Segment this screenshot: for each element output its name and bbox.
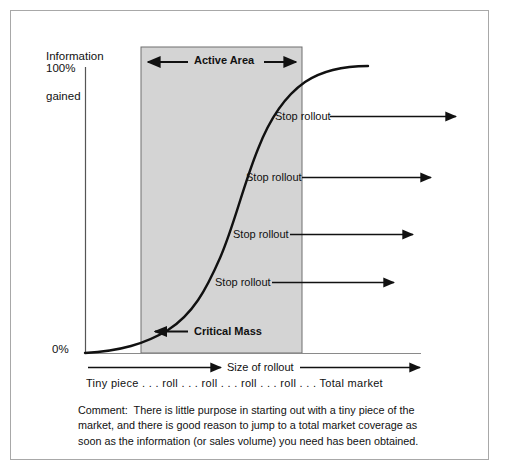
y-tick-100: 100% xyxy=(46,62,75,75)
comment-line-1: Comment: There is little purpose in star… xyxy=(78,403,433,418)
figure-page: Information gained 100% 0% Active Area C… xyxy=(0,0,505,476)
active-area-label: Active Area xyxy=(194,54,254,67)
x-axis-scale-label: Tiny piece . . . roll . . . roll . . . r… xyxy=(86,377,383,390)
comment-block: Comment: There is little purpose in star… xyxy=(78,403,433,449)
active-area-region xyxy=(141,47,302,353)
comment-line-3: soon as the information (or sales volume… xyxy=(78,434,433,449)
stop-rollout-label-4: Stop rollout xyxy=(215,276,271,289)
stop-rollout-label-3: Stop rollout xyxy=(233,228,289,241)
comment-line-2: market, and there is good reason to jump… xyxy=(78,418,433,433)
critical-mass-label: Critical Mass xyxy=(194,325,262,338)
y-tick-0: 0% xyxy=(52,343,69,356)
stop-rollout-label-1: Stop rollout xyxy=(275,110,331,123)
y-axis-label: Information gained xyxy=(46,24,104,130)
y-axis-label-line2: gained xyxy=(46,90,104,103)
stop-rollout-label-2: Stop rollout xyxy=(246,171,302,184)
x-axis-label: Size of rollout xyxy=(227,361,294,374)
